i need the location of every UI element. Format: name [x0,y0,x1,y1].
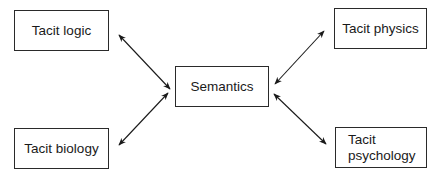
node-label: Tacit logic [32,23,91,38]
node-label: Tacit biology [24,141,98,156]
node-tacit-physics: Tacit physics [334,8,427,49]
arrow-logic-semantics [119,35,170,89]
node-tacit-biology: Tacit biology [14,128,109,169]
arrow-psychology-semantics [274,94,326,144]
node-tacit-psychology: Tacit psychology [335,127,427,168]
node-label-line1: Tacit [348,132,416,148]
node-label-line2: psychology [348,148,416,164]
node-label: Semantics [190,79,253,94]
arrow-physics-semantics [275,31,324,84]
node-label: Tacit physics [342,21,419,36]
arrow-biology-semantics [119,93,168,145]
node-tacit-logic: Tacit logic [14,10,109,51]
node-semantics-center: Semantics [175,66,269,107]
